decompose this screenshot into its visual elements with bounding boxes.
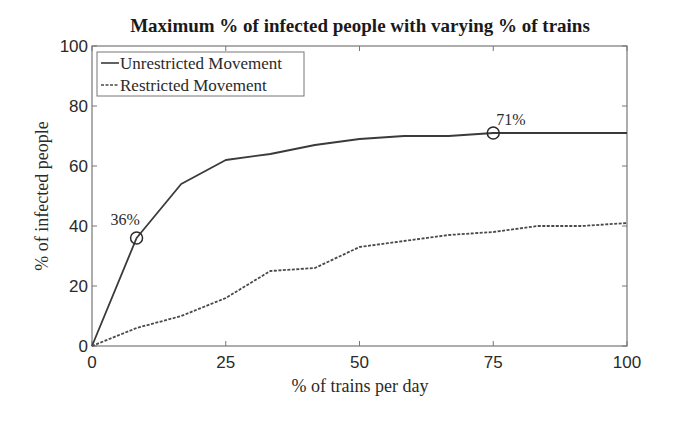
annotation-label: 71% [496, 111, 525, 128]
legend-label-unrestricted: Unrestricted Movement [120, 54, 282, 73]
y-tick-label: 0 [79, 337, 88, 356]
series-lines [92, 133, 627, 346]
legend-label-restricted: Restricted Movement [120, 76, 267, 95]
y-tick-label: 100 [60, 37, 88, 56]
x-tick-label: 100 [613, 353, 641, 372]
x-axis-label: % of trains per day [292, 376, 429, 396]
x-tick-label: 25 [216, 353, 235, 372]
chart-title: Maximum % of infected people with varyin… [130, 15, 590, 36]
annotations: 36%71% [111, 111, 526, 244]
y-tick-label: 60 [69, 157, 88, 176]
x-tick-label: 0 [87, 353, 96, 372]
y-tick-label: 20 [69, 277, 88, 296]
x-tick-label: 50 [350, 353, 369, 372]
y-axis-label: % of infected people [32, 121, 52, 270]
series-line-unrestricted [92, 133, 627, 346]
legend: Unrestricted Movement Restricted Movemen… [97, 52, 304, 96]
annotation-label: 36% [111, 211, 140, 228]
y-tick-label: 40 [69, 217, 88, 236]
line-chart: Maximum % of infected people with varyin… [0, 0, 673, 422]
x-tick-label: 75 [484, 353, 503, 372]
series-line-restricted [92, 223, 627, 346]
y-tick-label: 80 [69, 97, 88, 116]
